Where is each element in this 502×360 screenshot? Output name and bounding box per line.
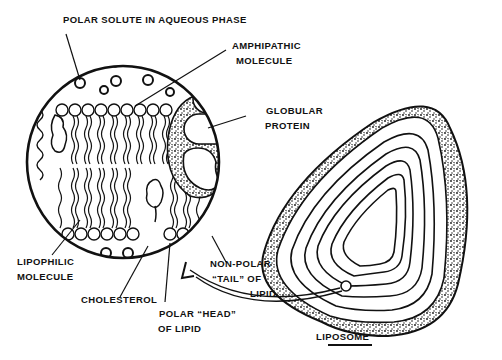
label-amphipathic-2: MOLECULE (236, 55, 293, 67)
lipophilic-molecule (51, 115, 66, 152)
label-cholesterol: CHOLESTEROL (81, 294, 157, 306)
label-amphipathic-1: AMPHIPATHIC (232, 40, 301, 52)
upper-leaflet-tails (72, 116, 170, 164)
bilayer-magnified-view (37, 44, 232, 265)
polar-solutes (75, 75, 174, 96)
label-globular-2: PROTEIN (265, 120, 310, 132)
label-polar-solute: POLAR SOLUTE IN AQUEOUS PHASE (63, 14, 247, 26)
globular-protein (167, 85, 232, 198)
label-nonpolar-3: LIPID (250, 288, 276, 300)
upper-leaflet-heads (56, 104, 172, 116)
label-liposome: LIPOSOME (316, 331, 369, 343)
label-globular-1: GLOBULAR (266, 105, 323, 117)
label-nonpolar-2: “TAIL” OF (212, 273, 261, 285)
label-lipophilic-1: LIPOPHILIC (17, 256, 74, 268)
top-layer-heads (82, 44, 199, 68)
label-polar-head-2: OF LIPID (158, 323, 201, 335)
diagram-drawing (0, 0, 502, 360)
label-polar-head-1: POLAR “HEAD” (159, 308, 236, 320)
cholesterol-molecule (147, 180, 164, 222)
liposome-diagram: POLAR SOLUTE IN AQUEOUS PHASE AMPHIPATHI… (0, 0, 502, 360)
liposome (262, 106, 467, 336)
label-lipophilic-2: MOLECULE (17, 271, 74, 283)
label-nonpolar-1: NON-POLAR (210, 258, 271, 270)
edge-chain (37, 110, 43, 180)
